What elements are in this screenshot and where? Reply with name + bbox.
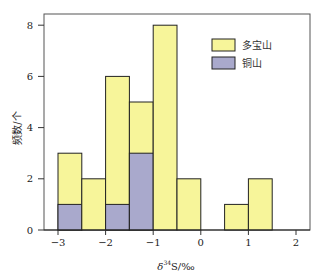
- x-tick-label: 2: [293, 237, 299, 248]
- y-tick-label: 0: [27, 225, 33, 236]
- y-tick-label: 4: [27, 122, 33, 133]
- legend-label-tongshan: 铜山: [242, 58, 262, 69]
- bar-total: [177, 179, 201, 230]
- legend-swatch-tongshan: [212, 57, 235, 69]
- bar-tongshan: [58, 204, 82, 230]
- legend-label-duobaoshan: 多宝山: [242, 39, 272, 51]
- y-axis-title: 频数/个: [11, 111, 23, 144]
- bar-tongshan: [106, 204, 130, 230]
- x-tick-label: −2: [98, 237, 113, 248]
- x-axis-title-rest: S/‰: [171, 261, 195, 272]
- bar-total: [82, 179, 106, 230]
- bar-total: [248, 179, 272, 230]
- x-axis: −3−2−1012: [51, 230, 300, 248]
- legend-swatch-duobaoshan: [212, 39, 235, 51]
- bar-total: [153, 25, 177, 230]
- bar-tongshan: [129, 153, 153, 230]
- bar-total: [225, 204, 249, 230]
- x-tick-label: −3: [51, 237, 66, 248]
- y-axis: 02468: [27, 20, 44, 236]
- x-axis-title-sup: 34: [163, 259, 171, 266]
- x-axis-title: δ34S/‰: [157, 259, 194, 272]
- y-tick-label: 6: [27, 71, 33, 82]
- histogram-chart: 02468 −3−2−1012 多宝山 铜山 δ34S/‰ 频数/个: [0, 0, 321, 280]
- x-tick-label: 0: [198, 237, 204, 248]
- y-tick-label: 2: [27, 173, 33, 184]
- x-tick-label: 1: [245, 237, 251, 248]
- x-tick-label: −1: [146, 237, 161, 248]
- y-tick-label: 8: [27, 20, 33, 31]
